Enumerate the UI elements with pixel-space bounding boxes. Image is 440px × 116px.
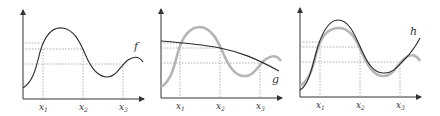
tick-x2: x2 [79, 102, 88, 113]
tick-x3: x3 [119, 102, 128, 113]
panel-f: f x1 x2 x3 [23, 10, 144, 113]
panel-h: h x1 x2 x3 [300, 8, 421, 111]
tick-x1: x1 [316, 100, 325, 111]
tick-x3: x3 [396, 100, 405, 111]
tick-x1: x1 [176, 101, 185, 112]
interpolation-figure: f x1 x2 x3 g x1 x2 x3 [0, 0, 440, 116]
label-g: g [272, 73, 279, 86]
tick-x2: x2 [356, 100, 365, 111]
curve-f [23, 28, 143, 88]
label-f: f [133, 40, 140, 53]
guide-lines [161, 43, 260, 98]
tick-x2: x2 [216, 101, 225, 112]
curve-f-reference [161, 27, 281, 87]
tick-x1: x1 [39, 102, 48, 113]
label-h: h [410, 25, 417, 38]
guide-lines [300, 42, 400, 97]
curve-h [300, 20, 420, 90]
panel-g: g x1 x2 x3 [161, 9, 282, 112]
tick-x3: x3 [256, 101, 265, 112]
guide-lines [23, 43, 123, 99]
